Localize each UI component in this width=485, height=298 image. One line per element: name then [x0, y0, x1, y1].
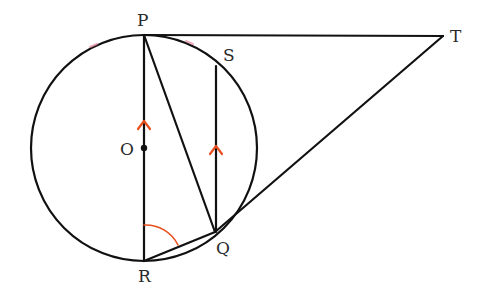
label-r: R	[138, 266, 152, 286]
label-s: S	[223, 45, 235, 65]
label-q: Q	[216, 238, 230, 258]
label-p: P	[137, 10, 148, 30]
segment-pq	[144, 35, 215, 232]
label-o: O	[120, 139, 134, 159]
segment-tq	[215, 36, 443, 232]
segment-rq	[144, 232, 215, 261]
label-t: T	[450, 26, 462, 46]
circle-theorem-diagram: P S T O Q R	[0, 0, 485, 298]
center-point-o	[141, 145, 147, 151]
angle-prq-arc	[144, 225, 178, 245]
segment-pt	[144, 35, 443, 36]
